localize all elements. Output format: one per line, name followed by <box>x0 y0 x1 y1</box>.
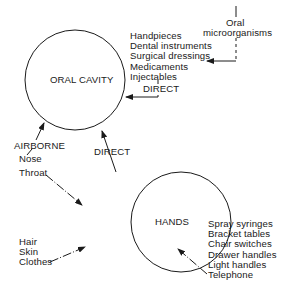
equipment-list: Spray syringes Bracket tables Chair swit… <box>208 219 277 280</box>
instruments-list: Handpieces Dental instruments Surgical d… <box>130 31 212 82</box>
arrow-airborne <box>36 123 44 140</box>
oral-microorganisms-line2: microorganisms <box>203 28 272 38</box>
list-item: Telephone <box>208 270 277 280</box>
arrow-throat-hands <box>46 175 82 205</box>
instruments-direct-label: DIRECT <box>143 84 179 94</box>
nose-label: Nose <box>19 154 42 164</box>
hands-direct-label: DIRECT <box>94 147 130 157</box>
list-item: Injectables <box>130 72 212 82</box>
oral-cavity-label: ORAL CAVITY <box>50 75 113 85</box>
throat-label: Throat <box>19 168 47 178</box>
list-item: Clothes <box>19 257 52 267</box>
hands-label: HANDS <box>155 217 189 227</box>
body-sources-list: Hair Skin Clothes <box>19 237 52 268</box>
arrow-body-hands <box>50 247 85 262</box>
airborne-label: AIRBORNE <box>14 141 65 151</box>
